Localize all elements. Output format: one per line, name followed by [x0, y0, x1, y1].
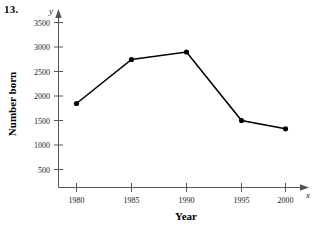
y-axis-title: Number born — [6, 72, 18, 136]
y-tick-label-3000: 3000 — [34, 43, 50, 52]
data-point-1985 — [129, 57, 134, 62]
chart-page: 13. 3500 3000 2500 2000 1500 1000 500 — [0, 0, 320, 229]
x-tick-label-1990: 1990 — [179, 196, 195, 205]
y-tick-label-3500: 3500 — [34, 19, 50, 28]
line-chart: 3500 3000 2500 2000 1500 1000 500 1980 1… — [0, 0, 320, 229]
y-axis-arrowhead — [55, 9, 61, 18]
data-series-line — [77, 52, 286, 129]
data-points — [74, 49, 288, 131]
y-tick-label-1000: 1000 — [34, 141, 50, 150]
x-axis-title: Year — [175, 210, 197, 222]
y-axis — [55, 9, 61, 188]
data-point-1990 — [184, 49, 189, 54]
data-point-1980 — [74, 101, 79, 106]
x-tick-label-1980: 1980 — [69, 196, 85, 205]
x-axis-tick-labels: 1980 1985 1990 1995 2000 — [69, 196, 294, 205]
y-tick-label-500: 500 — [38, 166, 50, 175]
y-tick-label-2000: 2000 — [34, 92, 50, 101]
y-tick-label-2500: 2500 — [34, 68, 50, 77]
x-axis — [59, 184, 310, 190]
x-tick-label-1985: 1985 — [124, 196, 140, 205]
data-point-2000 — [283, 126, 288, 131]
y-tick-label-1500: 1500 — [34, 117, 50, 126]
x-tick-label-1995: 1995 — [234, 196, 250, 205]
x-axis-variable-label: x — [305, 190, 310, 200]
x-tick-label-2000: 2000 — [278, 196, 294, 205]
y-axis-tick-labels: 3500 3000 2500 2000 1500 1000 500 — [34, 19, 50, 175]
data-point-1995 — [239, 118, 244, 123]
y-axis-variable-label: y — [48, 6, 53, 16]
